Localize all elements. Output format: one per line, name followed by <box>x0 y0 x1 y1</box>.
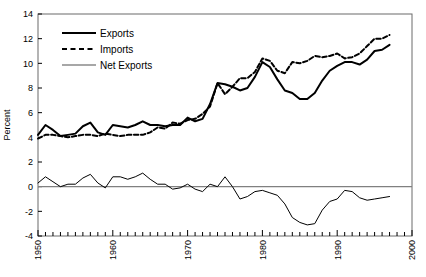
y-axis-tick-label: 10 <box>23 59 33 69</box>
y-axis-tick-label: -4 <box>25 231 33 241</box>
y-axis-tick-label: 8 <box>28 83 33 93</box>
line-chart: -4-202468101214Percent195019601970198019… <box>0 0 426 277</box>
x-axis-tick-label: 1960 <box>108 240 118 260</box>
y-axis-tick-label: 6 <box>28 108 33 118</box>
y-axis-tick-label: 2 <box>28 157 33 167</box>
x-axis-tick-label: 2000 <box>407 240 417 260</box>
y-axis-tick-label: 0 <box>28 182 33 192</box>
x-axis-tick-label: 1980 <box>258 240 268 260</box>
legend-label-imports: Imports <box>100 44 133 55</box>
y-axis-tick-label: 14 <box>23 9 33 19</box>
y-axis-title: Percent <box>2 109 12 141</box>
series-line-net-exports <box>38 173 390 225</box>
x-axis-tick-label: 1950 <box>33 240 43 260</box>
chart-container: -4-202468101214Percent195019601970198019… <box>0 0 426 277</box>
x-axis-tick-label: 1970 <box>183 240 193 260</box>
legend-label-exports: Exports <box>100 28 134 39</box>
y-axis-tick-label: 12 <box>23 34 33 44</box>
x-axis-tick-label: 1990 <box>333 240 343 260</box>
legend-label-net-exports: Net Exports <box>100 60 152 71</box>
plot-frame <box>38 14 412 236</box>
y-axis-tick-label: 4 <box>28 133 33 143</box>
series-line-exports <box>38 45 390 136</box>
y-axis-tick-label: -2 <box>25 207 33 217</box>
